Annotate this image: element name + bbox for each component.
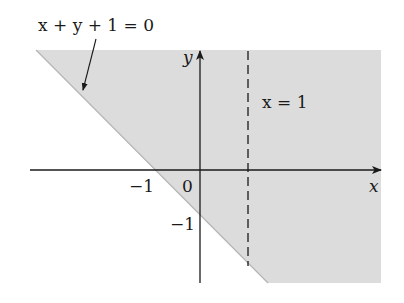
origin-label: 0	[182, 176, 193, 196]
vertical-line-label: x = 1	[262, 92, 307, 112]
shaded-region	[36, 50, 381, 283]
region-diagram: x + y + 1 = 0 x = 1 y x 0 −1 −1	[0, 0, 404, 303]
line-equation-label: x + y + 1 = 0	[38, 15, 154, 35]
y-axis-label: y	[182, 47, 193, 67]
x-tick-neg1-label: −1	[129, 176, 154, 196]
x-axis-label: x	[369, 176, 379, 196]
y-tick-neg1-label: −1	[170, 214, 195, 234]
